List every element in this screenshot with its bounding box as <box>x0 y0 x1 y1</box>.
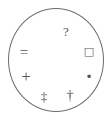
symbol-faint-speck: · <box>52 115 54 121</box>
circle-outline <box>8 8 104 112</box>
symbol-hollow-square: □ <box>84 46 94 57</box>
symbol-question-mark: ? <box>63 25 69 38</box>
symbol-circle-canvas: ?=□+•‡†· <box>0 0 112 123</box>
symbol-plus-sign: + <box>21 69 30 85</box>
symbol-bullet-dot: • <box>85 71 92 83</box>
symbol-double-dagger: ‡ <box>41 90 48 103</box>
symbol-dagger: † <box>67 89 74 103</box>
symbol-equals-sign: = <box>20 45 28 60</box>
